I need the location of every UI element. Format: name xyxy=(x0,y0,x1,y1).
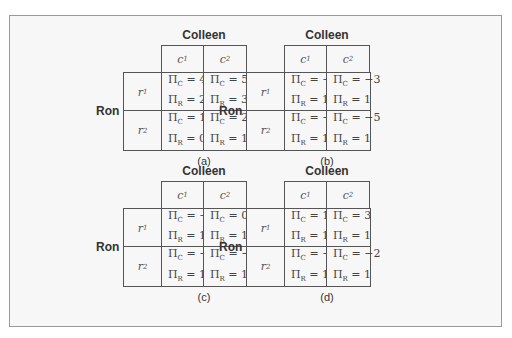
colleen-payoff: ΠC = −2 xyxy=(333,246,370,266)
column-player-label: Colleen xyxy=(161,164,247,178)
column-header-c2: c2 xyxy=(326,181,370,209)
ron-payoff: ΠR = 1 xyxy=(333,131,370,151)
column-header-c2: c2 xyxy=(203,181,247,209)
payoff-cell-r1-c2: ΠC = −3ΠR = 1 xyxy=(326,72,371,112)
colleen-payoff: ΠC = 0 xyxy=(210,208,247,228)
colleen-payoff: ΠC = −3 xyxy=(333,72,370,92)
payoff-cell-r2-c1: ΠC = −1ΠR = 1 xyxy=(284,246,328,287)
payoff-cell-r2-c1: ΠC = 1ΠR = 0 xyxy=(161,110,205,151)
payoff-cell-r2-c1: ΠC = −4ΠR = 1 xyxy=(284,110,328,151)
row-header-r1: r1 xyxy=(123,208,162,248)
payoff-cell-r1-c1: ΠC = 4ΠR = 2 xyxy=(161,72,205,112)
row-player-label: Ron xyxy=(96,104,119,118)
payoff-cell-r1-c2: ΠC = 3ΠR = 1 xyxy=(326,208,371,248)
ron-payoff: ΠR = 1 xyxy=(333,267,370,287)
colleen-payoff: ΠC = 4 xyxy=(168,72,204,92)
row-player-label: Ron xyxy=(96,240,119,254)
payoff-cell-r2-c1: ΠC = −4ΠR = 1 xyxy=(161,246,205,287)
ron-payoff: ΠR = 1 xyxy=(210,267,247,287)
colleen-payoff: ΠC = −5 xyxy=(333,110,370,130)
payoff-cell-r2-c2: ΠC = −2ΠR = 1 xyxy=(326,246,371,287)
row-header-r1: r1 xyxy=(123,72,162,112)
row-header-r1: r1 xyxy=(246,72,285,112)
payoff-cell-r1-c1: ΠC = −2ΠR = 1 xyxy=(284,72,328,112)
column-header-c1: c1 xyxy=(161,45,204,73)
column-player-label: Colleen xyxy=(161,28,247,42)
column-player-label: Colleen xyxy=(284,164,370,178)
colleen-payoff: ΠC = −4 xyxy=(291,110,327,130)
row-header-r2: r2 xyxy=(246,246,285,287)
colleen-payoff: ΠC = −4 xyxy=(168,246,204,266)
row-header-r2: r2 xyxy=(123,246,162,287)
colleen-payoff: ΠC = 3 xyxy=(333,208,370,228)
colleen-payoff: ΠC = −2 xyxy=(291,72,327,92)
column-header-c1: c1 xyxy=(161,181,204,209)
colleen-payoff: ΠC = 1 xyxy=(291,208,327,228)
ron-payoff: ΠR = 1 xyxy=(291,267,327,287)
colleen-payoff: ΠC = −1 xyxy=(291,246,327,266)
ron-payoff: ΠR = 0 xyxy=(168,131,204,151)
row-player-label: Ron xyxy=(219,104,242,118)
panel-caption: (d) xyxy=(284,291,370,303)
column-header-c1: c1 xyxy=(284,181,327,209)
payoff-cell-r1-c1: ΠC = −2ΠR = 1 xyxy=(161,208,205,248)
colleen-payoff: ΠC = 5 xyxy=(210,72,247,92)
ron-payoff: ΠR = 1 xyxy=(210,131,247,151)
ron-payoff: ΠR = 1 xyxy=(168,267,204,287)
payoff-cell-r1-c1: ΠC = 1ΠR = 1 xyxy=(284,208,328,248)
row-header-r2: r2 xyxy=(246,110,285,151)
row-header-r2: r2 xyxy=(123,110,162,151)
column-header-c2: c2 xyxy=(326,45,370,73)
column-header-c1: c1 xyxy=(284,45,327,73)
column-player-label: Colleen xyxy=(284,28,370,42)
colleen-payoff: ΠC = −2 xyxy=(168,208,204,228)
panel-caption: (c) xyxy=(161,291,247,303)
payoff-cell-r2-c2: ΠC = −5ΠR = 1 xyxy=(326,110,371,151)
ron-payoff: ΠR = 1 xyxy=(291,131,327,151)
row-header-r1: r1 xyxy=(246,208,285,248)
colleen-payoff: ΠC = 1 xyxy=(168,110,204,130)
column-header-c2: c2 xyxy=(203,45,247,73)
row-player-label: Ron xyxy=(219,240,242,254)
